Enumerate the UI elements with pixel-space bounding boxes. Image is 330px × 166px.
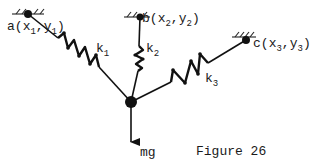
figure-caption: Figure 26 xyxy=(196,144,266,159)
spring-k1-label: k1 xyxy=(96,41,109,59)
spring-k3-label: k3 xyxy=(205,71,218,89)
anchor-b-label: b(x2,y2) xyxy=(142,11,200,29)
anchor-a-support xyxy=(12,9,44,18)
spring-k2 xyxy=(131,17,145,102)
spring-system-diagram: a(x1,y1) b(x2,y2) c(x3,y3) k1 k2 k3 mg F… xyxy=(0,0,330,166)
anchor-c-label: c(x3,y3) xyxy=(253,36,311,54)
spring-k2-label: k2 xyxy=(146,41,159,59)
weight-label: mg xyxy=(140,145,156,160)
anchor-a-label: a(x1,y1) xyxy=(7,19,65,37)
